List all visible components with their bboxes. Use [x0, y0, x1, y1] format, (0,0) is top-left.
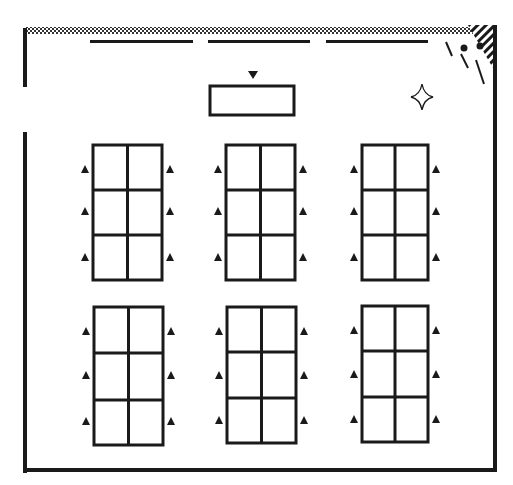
wall-bottom: [23, 468, 497, 472]
wall-left-lower: [23, 132, 27, 473]
triangle-up-icon: [166, 253, 174, 261]
triangle-up-icon: [350, 207, 358, 215]
classroom-diagram: [0, 0, 513, 485]
triangle-up-icon: [214, 165, 222, 173]
triangle-up-icon: [300, 371, 308, 379]
board-segment: [326, 40, 428, 43]
wall-right: [493, 25, 497, 472]
triangle-up-icon: [350, 165, 358, 173]
triangle-up-icon: [82, 327, 90, 335]
triangle-up-icon: [81, 165, 89, 173]
hatched-corner: [468, 25, 497, 75]
triangle-up-icon: [215, 416, 223, 424]
table-group: [350, 306, 440, 442]
triangle-up-icon: [215, 327, 223, 335]
four-point-star-icon: [411, 84, 433, 110]
triangle-up-icon: [166, 165, 174, 173]
table-group: [350, 145, 440, 280]
plant-icon: [446, 42, 484, 84]
triangle-up-icon: [350, 326, 358, 334]
triangle-up-icon: [432, 370, 440, 378]
board: [90, 40, 428, 43]
table-group: [82, 307, 175, 445]
triangle-up-icon: [167, 417, 175, 425]
table-group: [214, 145, 307, 280]
board-segment: [90, 40, 193, 43]
table-group: [215, 307, 308, 443]
board-segment: [208, 40, 310, 43]
triangle-up-icon: [166, 207, 174, 215]
triangle-up-icon: [350, 370, 358, 378]
table-group: [81, 145, 174, 280]
triangle-up-icon: [215, 371, 223, 379]
triangle-up-icon: [350, 253, 358, 261]
triangle-up-icon: [214, 207, 222, 215]
triangle-up-icon: [82, 417, 90, 425]
triangle-up-icon: [350, 415, 358, 423]
triangle-up-icon: [299, 253, 307, 261]
triangle-up-icon: [432, 326, 440, 334]
window-wall: [24, 27, 474, 34]
triangle-up-icon: [300, 416, 308, 424]
triangle-up-icon: [299, 165, 307, 173]
triangle-up-icon: [432, 415, 440, 423]
triangle-up-icon: [432, 207, 440, 215]
triangle-up-icon: [432, 253, 440, 261]
triangle-up-icon: [432, 165, 440, 173]
triangle-down-icon: [248, 71, 258, 79]
teacher-desk: [210, 86, 294, 115]
triangle-up-icon: [81, 253, 89, 261]
wall-left-upper: [23, 28, 27, 87]
triangle-up-icon: [167, 371, 175, 379]
triangle-up-icon: [81, 207, 89, 215]
triangle-up-icon: [167, 327, 175, 335]
triangle-up-icon: [299, 207, 307, 215]
triangle-up-icon: [300, 327, 308, 335]
triangle-up-icon: [82, 371, 90, 379]
triangle-up-icon: [214, 253, 222, 261]
